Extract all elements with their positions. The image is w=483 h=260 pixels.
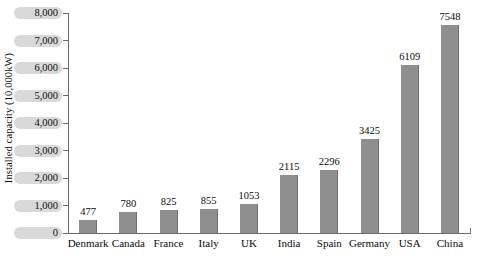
y-axis-tick-label-text: 6,000 [14, 62, 58, 74]
y-axis-tick [63, 150, 69, 151]
bar [119, 212, 137, 233]
bar [240, 204, 258, 233]
y-axis-tick-label-text: 7,000 [14, 35, 58, 47]
y-axis-tick [63, 68, 69, 69]
bar [280, 175, 298, 233]
bar-value-label: 2296 [299, 156, 359, 168]
y-axis-tick-label-text: 2,000 [14, 172, 58, 184]
y-axis-tick [63, 178, 69, 179]
y-axis-tick-label-text: 3,000 [14, 145, 58, 157]
bar [401, 65, 419, 233]
bar [320, 170, 338, 233]
y-axis-tick-label: 6,000 [14, 62, 62, 74]
y-axis-tick-label-text: 1,000 [14, 200, 58, 212]
bar [361, 139, 379, 233]
y-axis-tick-label: 4,000 [14, 117, 62, 129]
y-axis-tick-label: 8,000 [14, 7, 62, 19]
y-axis-tick [63, 13, 69, 14]
y-axis-tick-label: 3,000 [14, 145, 62, 157]
y-axis-tick-label-text: 8,000 [14, 7, 58, 19]
bar-chart: Installed capacity (10,000kW) 01,0002,00… [0, 0, 483, 260]
bar-value-label: 1053 [219, 190, 279, 202]
y-axis-tick [63, 123, 69, 124]
bar [79, 220, 97, 233]
y-axis-tick-label: 2,000 [14, 172, 62, 184]
bar-value-label: 6109 [380, 51, 440, 63]
x-axis-end-tick [470, 228, 471, 234]
y-axis-tick-label: 5,000 [14, 90, 62, 102]
bar-value-label: 7548 [420, 11, 480, 23]
y-axis-line [68, 13, 69, 234]
y-axis-tick-label: 7,000 [14, 35, 62, 47]
y-axis-tick-label: 1,000 [14, 200, 62, 212]
y-axis-tick-label-text: 4,000 [14, 117, 58, 129]
x-axis-category-label: China [420, 236, 480, 250]
y-axis-tick [63, 233, 69, 234]
y-axis-tick [63, 95, 69, 96]
y-axis-tick-label: 0 [14, 227, 62, 239]
bar [200, 209, 218, 233]
bar-value-label: 3425 [340, 125, 400, 137]
bar [160, 210, 178, 233]
bar [441, 25, 459, 233]
y-axis-tick-label-text: 0 [14, 227, 58, 239]
y-axis-tick-label-text: 5,000 [14, 90, 58, 102]
y-axis-tick [63, 40, 69, 41]
x-axis-line [68, 233, 471, 234]
